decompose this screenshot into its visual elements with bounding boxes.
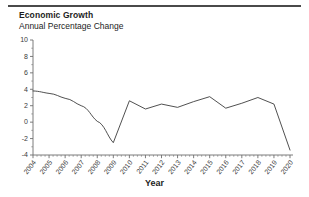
x-axis-tick-label: 2017: [231, 159, 246, 176]
y-axis-tick-labels: 1086420-2-4: [20, 36, 28, 158]
x-axis-tick-label: 2007: [70, 159, 85, 176]
x-axis-tick-label: 2019: [263, 159, 278, 176]
y-axis-tick-label: 8: [24, 53, 28, 60]
x-axis-tick-label: 2010: [119, 159, 134, 176]
y-axis-tick-label: 10: [20, 36, 28, 43]
x-axis-tick-label: 2006: [54, 159, 69, 176]
y-axis-tick-label: 6: [24, 69, 28, 76]
x-axis-tick-label: 2009: [102, 159, 117, 176]
x-axis-tick-label: 2015: [199, 159, 214, 176]
x-axis-tick-label: 2014: [183, 159, 198, 176]
x-axis-tick-label: 2004: [22, 159, 37, 176]
x-axis-tick-label: 2008: [86, 159, 101, 176]
chart-figure: Economic Growth Annual Percentage Change…: [0, 0, 309, 197]
x-axis-tick-label: 2020: [279, 159, 294, 176]
x-axis-tick-label: 2012: [151, 159, 166, 176]
y-axis-tick-label: -4: [22, 151, 28, 158]
x-axis-tick-marks: [33, 155, 290, 158]
x-axis-tick-label: 2018: [247, 159, 262, 176]
y-axis-tick-label: 0: [24, 118, 28, 125]
line-chart-plot: 1086420-2-4 2004200520062007200820092010…: [0, 0, 309, 197]
data-series-line: [33, 91, 290, 150]
x-axis-tick-labels: 2004200520062007200820092010201120122013…: [22, 159, 294, 176]
y-axis-tick-label: 4: [24, 86, 28, 93]
x-axis-tick-label: 2005: [38, 159, 53, 176]
x-axis-tick-label: 2011: [135, 159, 150, 175]
y-axis-tick-label: -2: [22, 135, 28, 142]
y-axis-tick-label: 2: [24, 102, 28, 109]
x-axis-tick-label: 2016: [215, 159, 230, 176]
x-axis-tick-label: 2013: [167, 159, 182, 176]
x-axis-title: Year: [0, 178, 309, 188]
